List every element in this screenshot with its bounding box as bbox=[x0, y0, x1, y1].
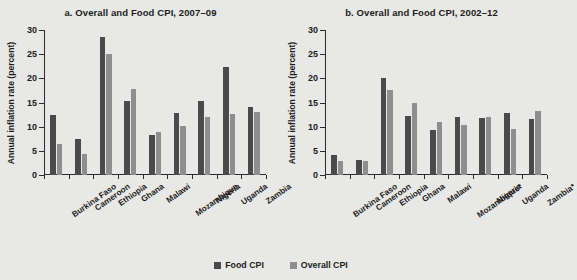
bar-food-cpi bbox=[198, 101, 204, 175]
y-axis-tick bbox=[320, 151, 325, 152]
panel-b-y-axis-line bbox=[325, 30, 326, 175]
bar-group bbox=[529, 30, 541, 175]
y-axis-tick-label: 5 bbox=[313, 146, 318, 156]
bar-group bbox=[405, 30, 417, 175]
y-axis-tick-label: 15 bbox=[27, 98, 37, 108]
x-axis-tick bbox=[448, 175, 449, 179]
bar-food-cpi bbox=[149, 135, 155, 175]
bar-group bbox=[381, 30, 393, 175]
x-axis-tick-label: Zambia* bbox=[545, 182, 576, 208]
y-axis-tick bbox=[39, 127, 44, 128]
x-axis-tick bbox=[498, 175, 499, 179]
bar-food-cpi bbox=[479, 118, 485, 175]
panel-a-y-axis-line bbox=[44, 30, 45, 175]
panel-a-y-axis-label: Annual inflation rate (percent) bbox=[6, 28, 19, 178]
panel-a-plot: 051015202530Burkina FasoCameroonEthiopia… bbox=[44, 30, 266, 175]
bar-overall-cpi bbox=[535, 111, 541, 175]
bar-overall-cpi bbox=[338, 161, 344, 176]
bar-food-cpi bbox=[248, 107, 254, 175]
bar-overall-cpi bbox=[387, 90, 393, 175]
y-axis-tick-label: 5 bbox=[32, 146, 37, 156]
bar-group bbox=[198, 30, 210, 175]
bar-food-cpi bbox=[75, 139, 81, 175]
x-axis-tick bbox=[241, 175, 242, 179]
bar-group bbox=[479, 30, 491, 175]
bar-overall-cpi bbox=[437, 122, 443, 175]
bar-food-cpi bbox=[50, 115, 56, 175]
x-axis-tick bbox=[167, 175, 168, 179]
bar-food-cpi bbox=[504, 113, 510, 175]
x-axis-tick bbox=[374, 175, 375, 179]
panel-a-plot-area: 051015202530Burkina FasoCameroonEthiopia… bbox=[44, 30, 266, 175]
x-axis-tick bbox=[547, 175, 548, 179]
bar-overall-cpi bbox=[412, 103, 418, 175]
y-axis-tick bbox=[320, 78, 325, 79]
x-axis-tick bbox=[143, 175, 144, 179]
legend-item-food[interactable]: Food CPI bbox=[214, 260, 264, 270]
chart-legend: Food CPIOverall CPI bbox=[0, 260, 562, 270]
x-axis-tick bbox=[93, 175, 94, 179]
y-axis-tick-label: 20 bbox=[27, 73, 37, 83]
x-axis-tick bbox=[192, 175, 193, 179]
bar-group bbox=[75, 30, 87, 175]
bar-group bbox=[455, 30, 467, 175]
bar-group bbox=[430, 30, 442, 175]
panel-b-plot: 051015202530Burkina FasoCameroonEthiopia… bbox=[325, 30, 547, 175]
y-axis-tick bbox=[320, 30, 325, 31]
x-axis-tick bbox=[69, 175, 70, 179]
bar-food-cpi bbox=[430, 130, 436, 175]
bar-overall-cpi bbox=[57, 144, 63, 175]
bar-food-cpi bbox=[455, 117, 461, 175]
y-axis-tick-label: 0 bbox=[32, 170, 37, 180]
bar-overall-cpi bbox=[461, 125, 467, 175]
bar-overall-cpi bbox=[230, 114, 236, 175]
y-axis-tick-label: 10 bbox=[27, 122, 37, 132]
y-axis-tick-label: 30 bbox=[27, 25, 37, 35]
x-axis-tick-label: Nigeria bbox=[495, 182, 523, 205]
legend-item-overall[interactable]: Overall CPI bbox=[290, 260, 348, 270]
y-axis-tick bbox=[320, 103, 325, 104]
x-axis-tick bbox=[325, 175, 326, 179]
chart-panel-b: b. Overall and Food CPI, 2002–12 Annual … bbox=[281, 0, 562, 248]
x-axis-tick bbox=[44, 175, 45, 179]
y-axis-tick bbox=[39, 78, 44, 79]
bar-group bbox=[149, 30, 161, 175]
bar-group bbox=[331, 30, 343, 175]
y-axis-tick-label: 10 bbox=[308, 122, 318, 132]
x-axis-tick-label: Malawi bbox=[165, 182, 192, 205]
bar-overall-cpi bbox=[82, 154, 88, 175]
bar-group bbox=[223, 30, 235, 175]
x-axis-tick bbox=[217, 175, 218, 179]
panel-b-plot-area: 051015202530Burkina FasoCameroonEthiopia… bbox=[325, 30, 547, 175]
legend-swatch-icon bbox=[214, 262, 221, 269]
y-axis-tick-label: 25 bbox=[308, 49, 318, 59]
x-axis-tick bbox=[424, 175, 425, 179]
bar-overall-cpi bbox=[486, 117, 492, 175]
y-axis-tick bbox=[39, 30, 44, 31]
bar-overall-cpi bbox=[106, 54, 112, 175]
bar-overall-cpi bbox=[156, 132, 162, 176]
bar-group bbox=[50, 30, 62, 175]
panel-b-y-axis-label: Annual inflation rate (percent) bbox=[287, 28, 300, 178]
panel-b-title: b. Overall and Food CPI, 2002–12 bbox=[281, 7, 562, 18]
x-axis-tick bbox=[522, 175, 523, 179]
bar-food-cpi bbox=[174, 113, 180, 175]
bar-overall-cpi bbox=[180, 126, 186, 175]
x-axis-tick bbox=[266, 175, 267, 179]
bar-food-cpi bbox=[405, 116, 411, 175]
bar-food-cpi bbox=[223, 67, 229, 175]
y-axis-tick-label: 0 bbox=[313, 170, 318, 180]
bar-group bbox=[504, 30, 516, 175]
bar-overall-cpi bbox=[511, 129, 517, 175]
y-axis-tick bbox=[320, 54, 325, 55]
x-axis-tick bbox=[118, 175, 119, 179]
bar-food-cpi bbox=[381, 78, 387, 175]
y-axis-tick bbox=[320, 127, 325, 128]
chart-panel-a: a. Overall and Food CPI, 2007–09 Annual … bbox=[0, 0, 281, 248]
y-axis-tick-label: 30 bbox=[308, 25, 318, 35]
x-axis-tick-label: Uganda bbox=[239, 182, 269, 207]
x-axis-tick bbox=[473, 175, 474, 179]
bar-group bbox=[124, 30, 136, 175]
bar-overall-cpi bbox=[254, 112, 260, 175]
